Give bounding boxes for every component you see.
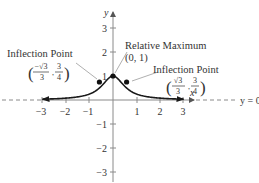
svg-text:3: 3 — [193, 76, 197, 85]
x-tick-labels: −3 −2 −1 1 2 3 — [36, 106, 186, 117]
svg-text:3: 3 — [181, 106, 186, 117]
chart: y = 0 x y −3 −2 −1 1 2 3 3 2 1 −1 −2 −3 — [0, 0, 259, 183]
svg-text:−√3: −√3 — [35, 62, 48, 71]
annotation-relative-maximum: Relative Maximum (0, 1) — [125, 40, 206, 64]
svg-text:−1: −1 — [96, 119, 107, 130]
svg-text:(: ( — [28, 64, 34, 83]
svg-text:2: 2 — [102, 47, 107, 58]
svg-text:(: ( — [166, 78, 172, 97]
asymptote-label: y = 0 — [240, 95, 259, 106]
svg-text:3: 3 — [102, 23, 107, 34]
svg-text:√3: √3 — [174, 76, 182, 85]
svg-text:1: 1 — [135, 106, 140, 117]
svg-text:4: 4 — [193, 87, 197, 96]
y-axis-label: y — [103, 7, 109, 18]
svg-text:(0, 1): (0, 1) — [125, 52, 148, 64]
annotation-inflection-left: Inflection Point ( −√3 3 , 3 4 ) — [7, 48, 73, 83]
inflection-point-right — [124, 79, 129, 84]
relative-maximum-point — [110, 73, 115, 78]
svg-text:−1: −1 — [83, 106, 94, 117]
svg-text:−2: −2 — [60, 106, 71, 117]
svg-text:−3: −3 — [36, 106, 47, 117]
svg-text:Inflection Point: Inflection Point — [153, 64, 219, 75]
svg-text:,: , — [188, 82, 190, 91]
svg-text:3: 3 — [40, 73, 44, 82]
inflection-point-left — [97, 79, 102, 84]
annotation-inflection-right: Inflection Point ( √3 3 , 3 4 ) — [153, 64, 219, 97]
svg-text:Inflection Point: Inflection Point — [7, 48, 73, 59]
svg-text:2: 2 — [158, 106, 163, 117]
svg-text:,: , — [52, 68, 54, 77]
svg-text:−2: −2 — [96, 143, 107, 154]
svg-text:4: 4 — [57, 73, 61, 82]
svg-text:): ) — [200, 78, 206, 97]
svg-text:Relative Maximum: Relative Maximum — [125, 40, 206, 51]
svg-text:−3: −3 — [96, 167, 107, 178]
svg-text:3: 3 — [57, 62, 61, 71]
svg-text:): ) — [64, 64, 70, 83]
svg-text:3: 3 — [176, 87, 180, 96]
